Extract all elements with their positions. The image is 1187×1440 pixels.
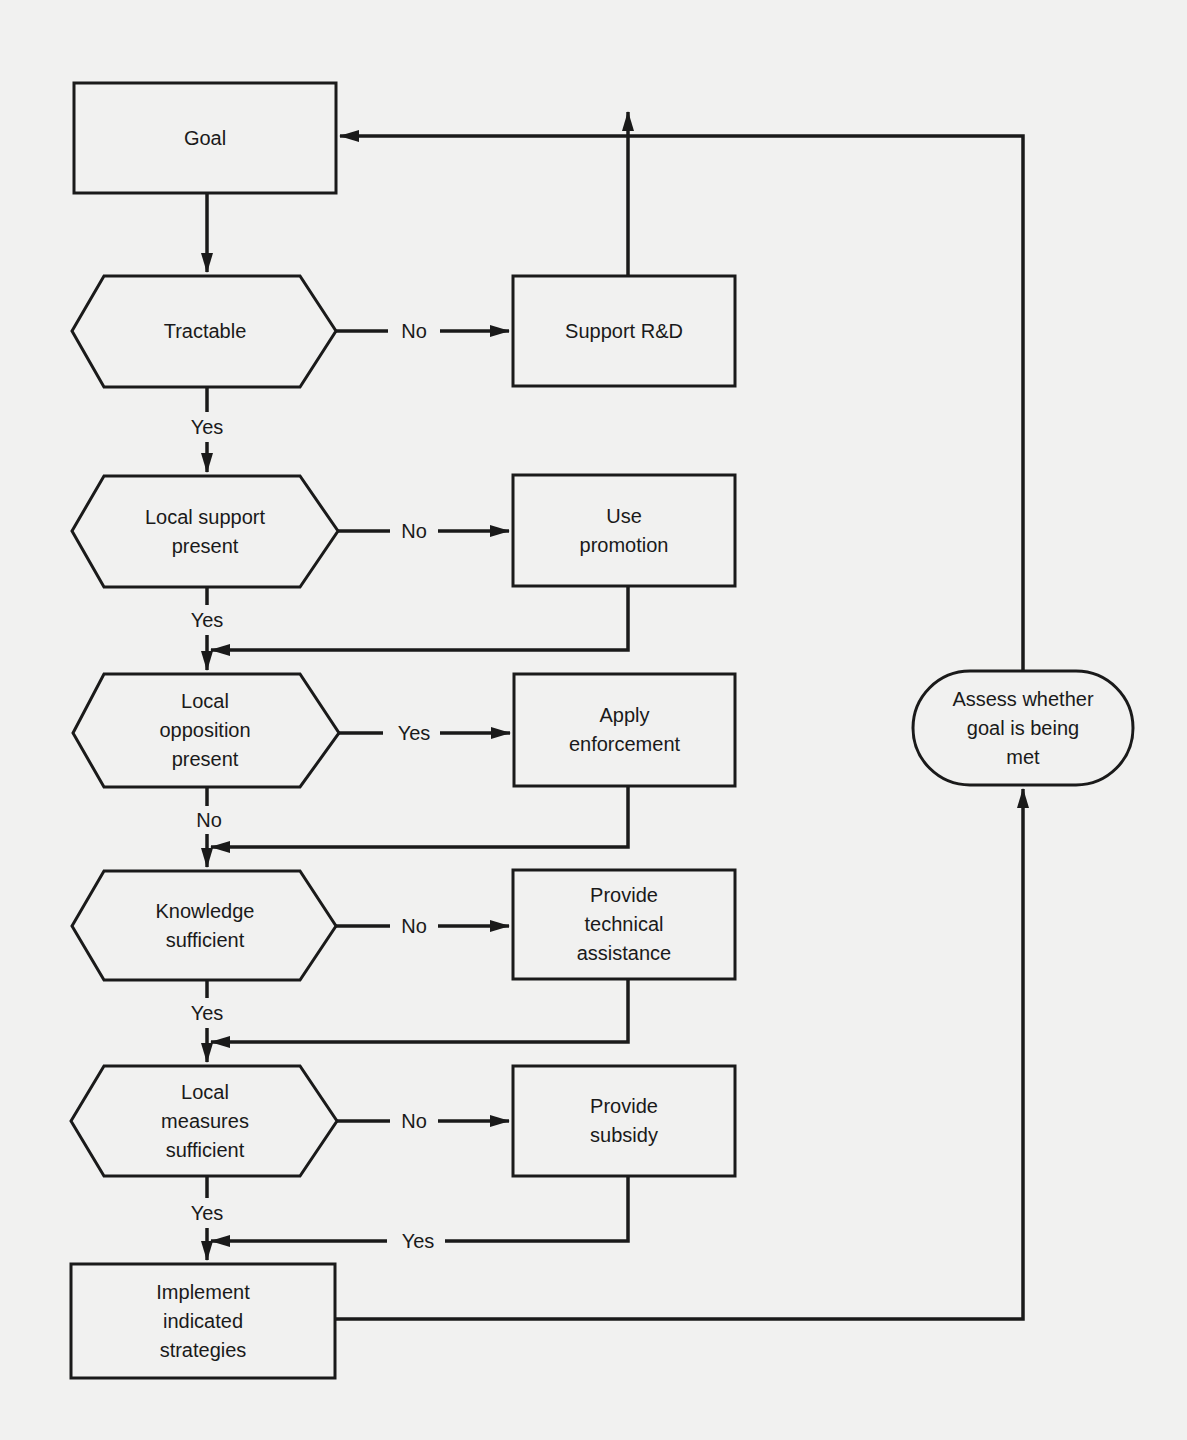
edge-label-tractable-no: No (390, 319, 438, 343)
connector-assistance-return (211, 979, 628, 1042)
edge-label-local-support-yes: Yes (183, 608, 231, 632)
connector-promotion-return (211, 586, 628, 650)
apply-enforcement-label: Apply enforcement (514, 674, 735, 786)
edge-label-local-opposition-yes: Yes (388, 721, 440, 745)
support-rd-label: Support R&D (513, 276, 735, 386)
connector-subsidy-return-a (445, 1176, 628, 1241)
edge-label-local-measures-no: No (390, 1109, 438, 1133)
connector-assess-goal (340, 136, 1023, 671)
assess-label: Assess whether goal is being met (913, 671, 1133, 785)
goal-label: Goal (74, 83, 336, 193)
tractable-label: Tractable (90, 276, 320, 387)
edge-label-tractable-yes: Yes (183, 415, 231, 439)
edge-label-local-opposition-no: No (187, 808, 231, 832)
edge-label-local-support-no: No (390, 519, 438, 543)
knowledge-label: Knowledge sufficient (90, 871, 320, 980)
edge-label-knowledge-no: No (390, 914, 438, 938)
edge-label-local-measures-yes: Yes (183, 1201, 231, 1225)
implement-label: Implement indicated strategies (71, 1264, 335, 1378)
local-support-label: Local support present (90, 476, 320, 587)
local-opposition-label: Local opposition present (90, 674, 320, 787)
use-promotion-label: Use promotion (513, 475, 735, 586)
edge-label-knowledge-yes: Yes (183, 1001, 231, 1025)
edge-label-subsidy-yes: Yes (392, 1229, 444, 1253)
provide-subsidy-label: Provide subsidy (513, 1066, 735, 1176)
technical-assistance-label: Provide technical assistance (513, 870, 735, 979)
connector-enforcement-return (211, 786, 628, 847)
local-measures-label: Local measures sufficient (90, 1066, 320, 1176)
